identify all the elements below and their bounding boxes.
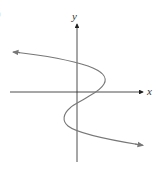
y-axis-label: y [72, 11, 77, 22]
x-axis-label: x [147, 86, 152, 97]
graph [0, 0, 158, 174]
curve-arrow-left [13, 52, 20, 53]
s-curve [14, 52, 141, 145]
curve-arrow-right [135, 144, 143, 145]
